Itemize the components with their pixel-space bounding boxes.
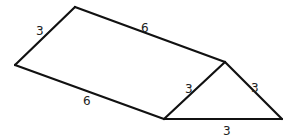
edge-ad [75,7,225,62]
label-ad: 6 [141,21,149,35]
label-ab: 3 [36,24,44,38]
edge-cd [164,62,225,119]
label-cd: 3 [185,82,193,96]
label-ce: 3 [223,124,231,138]
label-bc: 6 [83,94,91,108]
label-de: 3 [251,81,259,95]
edge-bc [15,65,164,119]
prism-diagram: 3 6 6 3 3 3 [0,0,298,139]
edge-ab [15,7,75,65]
